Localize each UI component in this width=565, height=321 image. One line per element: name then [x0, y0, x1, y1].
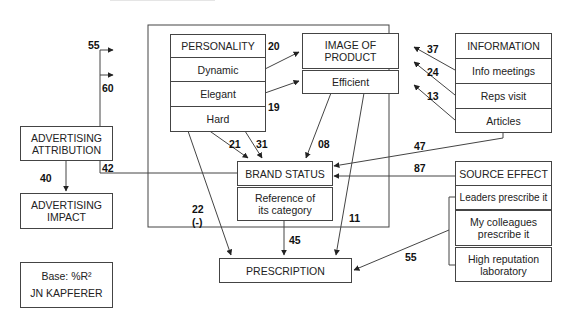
- colleagues-line2: prescribe it: [478, 228, 529, 240]
- personality-header-label: PERSONALITY: [181, 40, 255, 52]
- weight-personality: 20: [268, 41, 280, 52]
- legend-base-box: Base: %R² JN KAPFERER: [20, 262, 113, 308]
- information-item-info-meetings: Info meetings: [455, 58, 552, 84]
- weight-hard-brand: 31: [256, 139, 268, 150]
- reference-line1: Reference of: [255, 192, 315, 204]
- information-header-label: INFORMATION: [467, 40, 540, 52]
- impact-line1: ADVERTISING: [31, 199, 102, 211]
- image-of-product-header: IMAGE OF PRODUCT: [302, 33, 399, 69]
- weight-reference-prescription: 45: [289, 235, 301, 246]
- image-of-product-line2: PRODUCT: [325, 51, 377, 63]
- high-reputation-line2: laboratory: [480, 265, 527, 277]
- source-item-leaders: Leaders prescribe it: [455, 185, 552, 210]
- leaders-label: Leaders prescribe it: [460, 192, 548, 204]
- attribution-line2: ATTRIBUTION: [32, 144, 101, 156]
- base-label: Base: %R²: [41, 268, 91, 285]
- personality-item-hard: Hard: [170, 106, 266, 132]
- articles-label: Articles: [486, 115, 520, 127]
- weight-efficient-prescription: 11: [349, 213, 360, 224]
- prescription-label: PRESCRIPTION: [246, 265, 325, 277]
- reference-line2: its category: [258, 204, 312, 216]
- weight-hard-prescription: 22: [192, 204, 204, 215]
- source-effect-label: SOURCE EFFECT: [459, 168, 548, 180]
- weight-articles-image: 13: [427, 91, 439, 102]
- source-item-high-reputation: High reputation laboratory: [455, 247, 552, 282]
- prescription-box: PRESCRIPTION: [219, 258, 352, 283]
- personality-header: PERSONALITY: [170, 34, 266, 58]
- dynamic-label: Dynamic: [198, 64, 239, 76]
- weight-loop-dynamic: 55: [88, 40, 100, 51]
- colleagues-line1: My colleagues: [470, 216, 537, 228]
- legend-weight: 40: [40, 173, 52, 184]
- attribution-line1: ADVERTISING: [31, 132, 102, 144]
- weight-hard-prescription-sign: (-): [192, 217, 203, 228]
- author-label: JN KAPFERER: [30, 285, 102, 302]
- image-of-product-line1: IMAGE OF: [325, 39, 376, 51]
- personality-item-dynamic: Dynamic: [170, 57, 266, 82]
- source-effect-header: SOURCE EFFECT: [455, 161, 552, 186]
- personality-item-elegant: Elegant: [170, 81, 266, 107]
- information-item-articles: Articles: [455, 108, 552, 133]
- efficient-label: Efficient: [332, 76, 369, 88]
- source-item-colleagues: My colleagues prescribe it: [455, 210, 552, 246]
- hard-label: Hard: [207, 113, 230, 125]
- weight-brand-status-out: 42: [102, 163, 114, 174]
- info-meetings-label: Info meetings: [472, 65, 535, 77]
- elegant-label: Elegant: [200, 88, 236, 100]
- brand-status-header: BRAND STATUS: [237, 161, 333, 186]
- weight-efficient-brand: 08: [318, 139, 330, 150]
- reps-visit-label: Reps visit: [481, 90, 527, 102]
- information-item-reps-visit: Reps visit: [455, 83, 552, 109]
- weight-loop-elegant: 60: [102, 83, 114, 94]
- high-reputation-line1: High reputation: [468, 253, 539, 265]
- impact-line2: IMPACT: [47, 211, 86, 223]
- legend-advertising-impact: ADVERTISING IMPACT: [20, 193, 113, 229]
- weight-articles-brand: 47: [414, 141, 426, 152]
- brand-status-reference: Reference of its category: [237, 187, 333, 221]
- weight-source-prescription: 55: [405, 252, 417, 263]
- legend-advertising-attribution: ADVERTISING ATTRIBUTION: [20, 126, 113, 161]
- weight-elegant-hard: 19: [268, 102, 280, 113]
- information-header: INFORMATION: [455, 33, 552, 59]
- weight-source-brand: 87: [414, 163, 426, 174]
- image-item-efficient: Efficient: [302, 70, 399, 94]
- weight-elegant-brand: 21: [229, 139, 241, 150]
- weight-reps-visit: 24: [427, 67, 439, 78]
- brand-status-label: BRAND STATUS: [245, 168, 325, 180]
- weight-info-meetings: 37: [427, 44, 439, 55]
